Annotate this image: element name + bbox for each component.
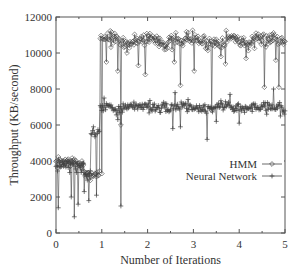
- legend-label-neural-network: Neural Network: [186, 170, 258, 182]
- y-tick-label: 12000: [25, 11, 53, 23]
- x-tick-label: 0: [53, 238, 59, 250]
- y-tick-label: 6000: [30, 119, 53, 131]
- y-tick-label: 2000: [30, 191, 53, 203]
- y-tick-label: 0: [47, 227, 53, 239]
- x-tick-label: 3: [191, 238, 197, 250]
- x-tick-label: 5: [282, 238, 288, 250]
- throughput-chart: 012345020004000600080001000012000 Number…: [0, 0, 297, 277]
- y-tick-label: 8000: [30, 83, 53, 95]
- x-axis-title: Number of Iterations: [120, 253, 221, 267]
- series-layer: [54, 28, 288, 219]
- series-neural-network: [54, 87, 288, 220]
- y-axis-title: Throughput (KB/second): [7, 65, 21, 186]
- legend-label-hmm: HMM: [229, 158, 257, 170]
- y-tick-label: 4000: [30, 155, 53, 167]
- x-tick-label: 2: [145, 238, 151, 250]
- y-tick-label: 10000: [25, 47, 53, 59]
- x-tick-label: 1: [99, 238, 105, 250]
- legend: HMM Neural Network: [180, 154, 284, 182]
- x-tick-label: 4: [236, 238, 242, 250]
